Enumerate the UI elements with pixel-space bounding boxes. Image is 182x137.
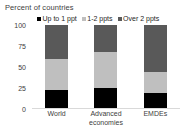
y-tick-50: 50	[18, 64, 26, 71]
y-tick-75: 75	[18, 43, 26, 50]
legend-swatch-1-2-ppts	[82, 17, 86, 21]
legend-item-up-to-1-ppt: Up to 1 ppt	[37, 15, 77, 22]
plot-area	[32, 25, 180, 109]
bar-series-group	[32, 25, 180, 109]
bar-segment-up-to-1-ppt	[94, 88, 117, 109]
bar-stack-advanced-economies	[94, 25, 117, 109]
x-axis: World Advanced economies EMDEs	[32, 110, 180, 134]
y-tick-0: 0	[22, 106, 26, 113]
legend-swatch-up-to-1-ppt	[37, 17, 41, 21]
x-label-line: World	[35, 110, 79, 119]
bar-segment-up-to-1-ppt	[45, 90, 68, 109]
x-label-world: World	[35, 110, 79, 134]
bar-group-world	[40, 25, 73, 109]
y-tick-100: 100	[14, 22, 26, 29]
chart-title: Percent of countries	[5, 3, 74, 12]
bar-stack-world	[45, 25, 68, 109]
legend-label-over-2-ppts: Over 2 ppts	[123, 15, 159, 22]
legend-label-up-to-1-ppt: Up to 1 ppt	[43, 15, 77, 22]
bar-segment-over-2-ppts	[144, 25, 167, 72]
legend-swatch-over-2-ppts	[118, 17, 122, 21]
legend-label-1-2-ppts: 1-2 ppts	[87, 15, 112, 22]
bar-segment-1-2-ppts	[94, 52, 117, 88]
x-label-emdes: EMDEs	[133, 110, 177, 134]
bar-group-advanced-economies	[89, 25, 122, 109]
chart-container: Percent of countries Up to 1 ppt 1-2 ppt…	[0, 0, 182, 137]
bar-segment-1-2-ppts	[45, 59, 68, 90]
bar-stack-emdes	[144, 25, 167, 109]
legend-item-1-2-ppts: 1-2 ppts	[82, 15, 113, 22]
legend-item-over-2-ppts: Over 2 ppts	[118, 15, 160, 22]
bar-segment-over-2-ppts	[45, 25, 68, 59]
bar-segment-over-2-ppts	[94, 25, 117, 52]
bar-group-emdes	[139, 25, 172, 109]
bar-segment-1-2-ppts	[144, 72, 167, 93]
y-axis: 100 75 50 25 0	[0, 25, 29, 109]
chart-legend: Up to 1 ppt 1-2 ppts Over 2 ppts	[37, 15, 159, 22]
x-axis-baseline	[32, 108, 180, 109]
x-label-line: economies	[84, 119, 128, 128]
x-label-advanced-economies: Advanced economies	[84, 110, 128, 134]
x-label-line: EMDEs	[133, 110, 177, 119]
bar-segment-up-to-1-ppt	[144, 93, 167, 109]
y-tick-25: 25	[18, 85, 26, 92]
x-label-line: Advanced	[84, 110, 128, 119]
